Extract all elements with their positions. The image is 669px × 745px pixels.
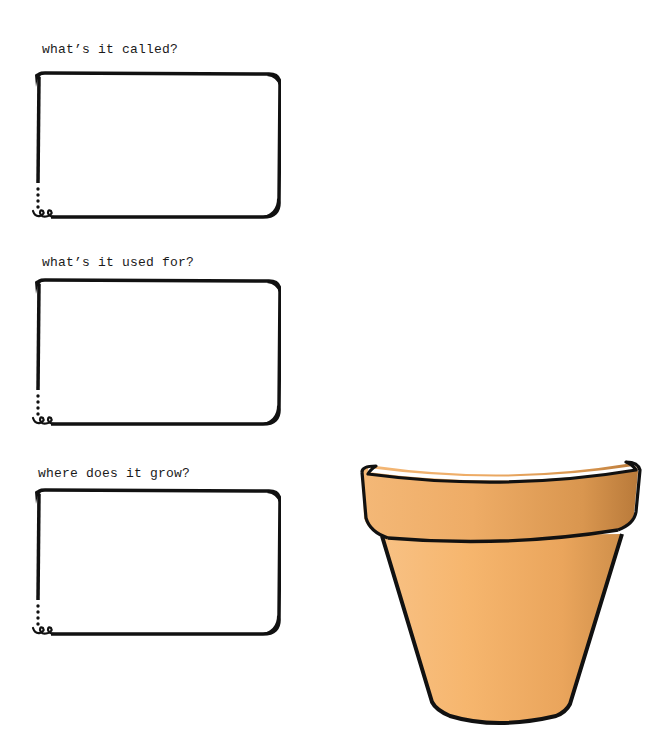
answer-box-name[interactable] [31, 71, 281, 219]
answer-field-use[interactable] [43, 288, 273, 412]
answer-box-use[interactable] [31, 278, 281, 426]
question-label-grow: where does it grow? [38, 466, 190, 481]
question-label-name: what’s it called? [42, 42, 178, 57]
question-label-use: what’s it used for? [42, 255, 194, 270]
answer-field-name[interactable] [43, 81, 273, 205]
answer-box-grow[interactable] [31, 488, 281, 636]
flower-pot-illustration [354, 458, 646, 730]
flower-pot-icon [354, 458, 646, 730]
answer-field-grow[interactable] [43, 498, 273, 622]
